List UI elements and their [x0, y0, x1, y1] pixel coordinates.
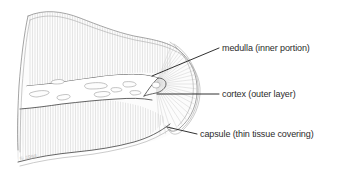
label-capsule: capsule (thin tissue covering) [200, 129, 314, 139]
label-medulla: medulla (inner portion) [222, 43, 310, 53]
label-cortex: cortex (outer layer) [222, 89, 296, 99]
adrenal-gland-diagram: medulla (inner portion) cortex (outer la… [0, 0, 338, 178]
labels: medulla (inner portion) cortex (outer la… [200, 43, 314, 139]
